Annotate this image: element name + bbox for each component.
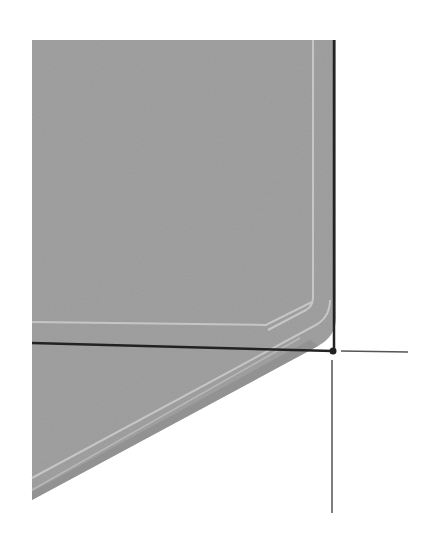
right-reference-line bbox=[341, 351, 408, 352]
origin-dot bbox=[330, 348, 337, 355]
corner-diagram bbox=[0, 0, 436, 535]
plate-shape bbox=[32, 40, 336, 500]
